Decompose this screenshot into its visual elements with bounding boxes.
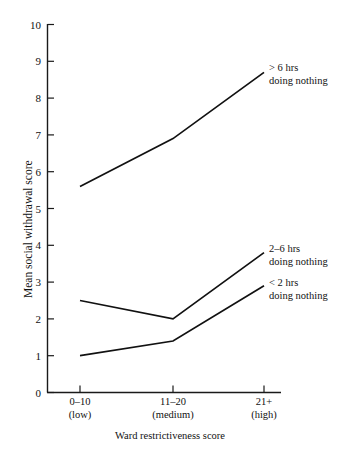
y-tick-label-10: 10: [30, 19, 42, 31]
y-tick-label-1: 1: [36, 350, 42, 362]
y-tick-marks: [48, 25, 55, 393]
series-line-lt2hrs: [80, 286, 264, 356]
y-tick-label-0: 0: [36, 387, 42, 399]
series-line-gt6hrs: [80, 72, 264, 186]
x-category-label-0: 0–10 (low): [48, 396, 112, 421]
x-category-1-line2: (medium): [152, 409, 193, 420]
x-category-label-1: 11–20 (medium): [135, 396, 211, 421]
x-category-0-line1: 0–10: [70, 396, 91, 407]
x-tick-marks: [80, 386, 264, 393]
series-annotation-2to6hrs-line1: 2–6 hrs: [269, 243, 328, 256]
series-annotation-lt2hrs-line2: doing nothing: [269, 290, 328, 303]
x-category-2-line2: (high): [251, 409, 277, 420]
y-tick-label-3: 3: [36, 276, 42, 288]
y-tick-label-8: 8: [36, 92, 42, 104]
x-axis-title: Ward restrictiveness score: [60, 430, 280, 441]
x-category-1-line1: 11–20: [160, 396, 186, 407]
x-category-label-2: 21+ (high): [232, 396, 296, 421]
y-tick-label-5: 5: [36, 203, 42, 215]
series-annotation-gt6hrs: > 6 hrs doing nothing: [269, 62, 328, 87]
y-tick-label-6: 6: [36, 166, 42, 178]
y-tick-label-9: 9: [36, 55, 42, 67]
y-tick-label-4: 4: [36, 239, 42, 251]
series-annotation-gt6hrs-line1: > 6 hrs: [269, 62, 328, 75]
x-category-2-line1: 21+: [256, 396, 272, 407]
y-tick-label-2: 2: [36, 313, 42, 325]
series-line-2to6hrs: [80, 253, 264, 319]
series-annotation-2to6hrs: 2–6 hrs doing nothing: [269, 243, 328, 268]
series-annotation-gt6hrs-line2: doing nothing: [269, 75, 328, 88]
series-annotation-2to6hrs-line2: doing nothing: [269, 256, 328, 269]
series-annotation-lt2hrs-line1: < 2 hrs: [269, 277, 328, 290]
x-category-0-line2: (low): [69, 409, 92, 420]
y-axis-title: Mean social withdrawal score: [22, 160, 34, 298]
chart-figure: 0 1 2 3 4 5 6 7 8 9 10 Mean social withd…: [0, 0, 349, 457]
series-annotation-lt2hrs: < 2 hrs doing nothing: [269, 277, 328, 302]
y-tick-label-7: 7: [36, 129, 42, 141]
